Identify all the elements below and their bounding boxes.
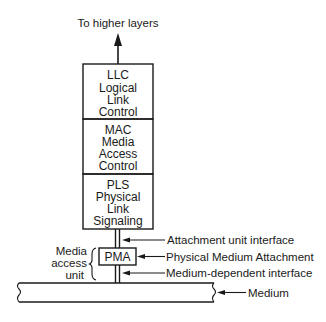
pma-pointer-arrow-icon: [137, 254, 165, 259]
up-arrow-icon: [114, 33, 122, 64]
aui-cable: [116, 229, 120, 248]
llc-abbr: LLC: [107, 68, 129, 82]
top-label: To higher layers: [77, 17, 158, 29]
pma-annotation: Physical Medium Attachment: [166, 251, 314, 263]
mau-line-1: Media: [56, 245, 88, 257]
pma-label: PMA: [104, 250, 130, 264]
mac-layer-text: MAC Media Access Control: [99, 123, 138, 173]
ieee-802-layer-diagram: To higher layers LLC Logical Link Contro…: [0, 0, 326, 322]
media-access-unit-label: Media access unit: [51, 245, 87, 281]
mdi-cable: [116, 265, 120, 283]
mau-line-3: unit: [65, 269, 84, 281]
medium-band: [18, 283, 216, 302]
aui-annotation: Attachment unit interface: [167, 234, 294, 246]
llc-line-3: Control: [99, 105, 138, 119]
mac-line-3: Control: [99, 159, 138, 173]
brace-icon: [90, 248, 97, 280]
aui-pointer-arrow-icon: [122, 238, 165, 243]
mdi-pointer-arrow-icon: [122, 271, 165, 276]
mau-line-2: access: [51, 257, 87, 269]
pls-layer-text: PLS Physical Link Signaling: [93, 178, 142, 228]
layer-stack: LLC Logical Link Control MAC Media Acces…: [83, 64, 153, 229]
mdi-annotation: Medium-dependent interface: [166, 267, 312, 279]
llc-layer-text: LLC Logical Link Control: [99, 68, 138, 119]
medium-annotation: Medium: [248, 287, 289, 299]
pls-line-3: Signaling: [93, 214, 142, 228]
medium-pointer-arrow-icon: [217, 290, 246, 295]
